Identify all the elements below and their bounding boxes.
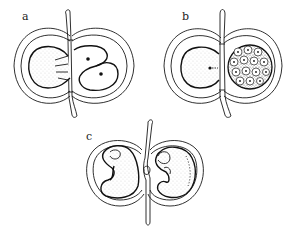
panel-a: a	[14, 10, 134, 118]
panel-c: c	[86, 120, 203, 225]
embryo-right	[156, 147, 196, 197]
nucleus-dot	[99, 72, 103, 76]
nucleus-dot	[86, 57, 90, 61]
stalk-rod	[144, 120, 153, 225]
yolk-sphere	[181, 47, 219, 88]
cell-mass	[228, 45, 272, 89]
blastomere-lower	[79, 63, 118, 91]
yolk-sphere	[29, 47, 70, 89]
blastomere-upper	[74, 46, 107, 76]
embryo-left	[101, 146, 139, 198]
panel-label-b: b	[182, 10, 189, 23]
nucleus-dot	[208, 66, 211, 69]
panel-label-a: a	[22, 10, 29, 23]
embryo-development-diagram: a b	[0, 0, 288, 228]
panel-label-c: c	[86, 130, 92, 143]
panel-b: b	[164, 10, 282, 118]
